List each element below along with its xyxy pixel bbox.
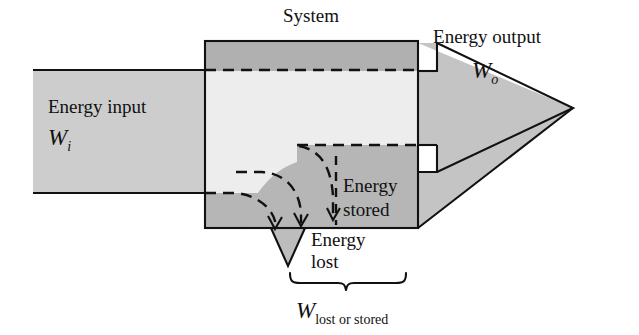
system-label: System (283, 5, 339, 26)
energy-input-symbol: W (48, 125, 69, 150)
brace-subscript: lost or stored (315, 312, 388, 327)
energy-lost-label-line2: lost (311, 251, 339, 272)
energy-flow-diagram: System Energy input Wi Energy output Wo … (0, 0, 639, 335)
energy-input-subscript: i (67, 139, 71, 154)
energy-stored-label-line1: Energy (343, 175, 398, 196)
energy-lost-arrow-shape (271, 228, 305, 266)
energy-output-subscript: o (491, 72, 498, 87)
brace-lost-or-stored (290, 273, 406, 290)
energy-output-symbol-group: Wo (472, 58, 498, 87)
brace-symbol: W (296, 298, 317, 323)
energy-lost-label-line1: Energy (311, 229, 366, 250)
energy-output-symbol: W (472, 58, 493, 83)
system-top-band (205, 41, 418, 71)
energy-input-label: Energy input (48, 96, 147, 117)
energy-output-label: Energy output (433, 26, 542, 47)
energy-stored-label-line2: stored (343, 199, 390, 220)
brace-symbol-group: Wlost or stored (296, 298, 388, 327)
diagram-canvas: System Energy input Wi Energy output Wo … (0, 0, 639, 335)
